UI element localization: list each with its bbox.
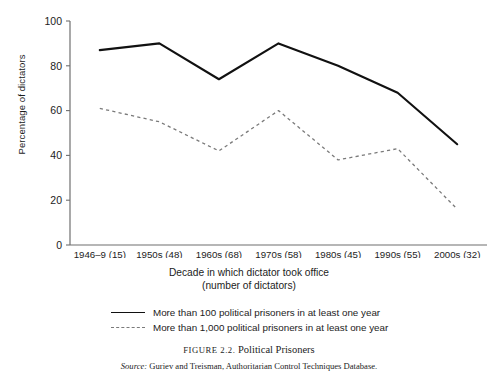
legend-item-more-than-100: More than 100 political prisoners in at …	[0, 305, 498, 320]
y-tick-label: 20	[50, 194, 62, 206]
chart-legend: More than 100 political prisoners in at …	[0, 305, 498, 335]
x-tick-label: 1946–9 (15)	[74, 249, 126, 258]
figure-caption: FIGURE 2.2. Political Prisoners	[0, 344, 498, 355]
chart-plot-area: Percentage of dictators 020406080100 194…	[0, 0, 498, 258]
figure-number: FIGURE 2.2.	[183, 345, 235, 355]
y-tick-label: 80	[50, 60, 62, 72]
x-axis-title-line1: Decade in which dictator took office	[0, 266, 498, 279]
legend-label-more-than-1000: More than 1,000 political prisoners in a…	[153, 322, 388, 333]
series-line-more-than-100	[100, 43, 457, 144]
x-axis-ticks: 1946–9 (15)1950s (48)1960s (68)1970s (58…	[74, 249, 481, 258]
legend-swatch-solid-icon	[111, 308, 145, 318]
y-tick-label: 100	[44, 15, 62, 27]
figure-political-prisoners: Percentage of dictators 020406080100 194…	[0, 0, 498, 378]
x-axis-title-line2: (number of dictators)	[0, 279, 498, 292]
legend-swatch-dashed-icon	[111, 323, 145, 333]
y-tick-label: 0	[56, 239, 62, 251]
figure-source: Source: Guriev and Treisman, Authoritari…	[0, 361, 498, 371]
source-label: Source:	[121, 361, 147, 371]
series-line-more-than-1000	[100, 108, 457, 209]
y-tick-label: 60	[50, 104, 62, 116]
x-tick-label: 1990s (55)	[374, 249, 420, 258]
line-chart-svg: 020406080100 1946–9 (15)1950s (48)1960s …	[0, 0, 498, 258]
legend-label-more-than-100: More than 100 political prisoners in at …	[153, 307, 380, 318]
x-axis-title: Decade in which dictator took office (nu…	[0, 266, 498, 292]
x-tick-label: 2000s (32)	[434, 249, 480, 258]
y-axis-ticks: 020406080100	[44, 15, 70, 251]
y-tick-label: 40	[50, 149, 62, 161]
x-tick-label: 1960s (68)	[196, 249, 242, 258]
source-text: Guriev and Treisman, Authoritarian Contr…	[149, 361, 377, 371]
x-tick-label: 1970s (58)	[255, 249, 301, 258]
figure-title: Political Prisoners	[238, 344, 315, 355]
x-tick-label: 1950s (48)	[136, 249, 182, 258]
x-tick-label: 1980s (45)	[315, 249, 361, 258]
legend-item-more-than-1000: More than 1,000 political prisoners in a…	[0, 320, 498, 335]
